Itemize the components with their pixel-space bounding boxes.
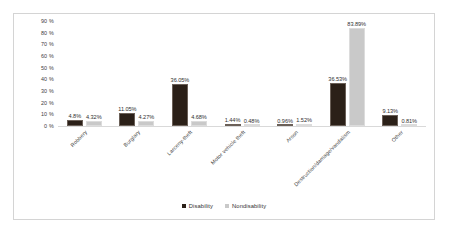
plot-area: 90 %80 %70 %60 %50 %40 %30 %20 %10 %0 % … bbox=[58, 21, 426, 126]
bar-group: 36.53%83.89%Destruction/damage/vandalism bbox=[321, 21, 374, 126]
category-axis-line bbox=[58, 126, 426, 127]
bar-pair: 11.05%4.27% bbox=[111, 21, 164, 126]
y-axis-tick-label: 30 % bbox=[41, 88, 54, 94]
y-axis-tick-label: 70 % bbox=[41, 41, 54, 47]
bar-column: 0.81% bbox=[401, 21, 417, 126]
y-axis-tick-label: 20 % bbox=[41, 100, 54, 106]
bar-column: 1.44% bbox=[225, 21, 241, 126]
bar-column: 4.68% bbox=[191, 21, 207, 126]
x-axis-category-label: Arson bbox=[284, 129, 299, 144]
bar-nondisability[interactable] bbox=[191, 121, 207, 126]
bar-value-label: 36.05% bbox=[171, 77, 190, 83]
bar-value-label: 11.05% bbox=[118, 106, 136, 112]
bar-disability[interactable] bbox=[225, 124, 241, 126]
bar-nondisability[interactable] bbox=[349, 28, 365, 126]
bar-group: 36.05%4.68%Larceny-theft bbox=[163, 21, 216, 126]
bar-group: 4.8%4.32%Robbery bbox=[58, 21, 111, 126]
bar-value-label: 0.81% bbox=[401, 118, 417, 124]
x-axis-category-label: Destruction/damage/vandalism bbox=[293, 129, 352, 188]
bar-pair: 4.8%4.32% bbox=[58, 21, 111, 126]
chart-legend: DisabilityNondisability bbox=[14, 203, 434, 209]
bar-value-label: 36.53% bbox=[328, 76, 347, 82]
bar-column: 83.89% bbox=[349, 21, 365, 126]
bar-column: 36.53% bbox=[330, 21, 346, 126]
y-axis-tick-label: 80 % bbox=[41, 30, 54, 36]
y-axis-tick-label: 90 % bbox=[41, 18, 54, 24]
bar-column: 11.05% bbox=[119, 21, 135, 126]
bar-disability[interactable] bbox=[277, 124, 293, 126]
bar-column: 4.27% bbox=[138, 21, 154, 126]
bar-value-label: 4.68% bbox=[191, 114, 207, 120]
x-axis-category-label: Larceny-theft bbox=[166, 129, 193, 156]
bar-value-label: 4.32% bbox=[86, 114, 102, 120]
bar-value-label: 1.44% bbox=[225, 117, 241, 123]
bar-column: 1.52% bbox=[296, 21, 312, 126]
bar-value-label: 4.8% bbox=[69, 113, 82, 119]
bar-disability[interactable] bbox=[67, 120, 83, 126]
bar-column: 4.32% bbox=[86, 21, 102, 126]
bar-pair: 36.05%4.68% bbox=[163, 21, 216, 126]
legend-item-disability[interactable]: Disability bbox=[182, 203, 213, 209]
y-axis-tick-label: 60 % bbox=[41, 53, 54, 59]
legend-item-nondisability[interactable]: Nondisability bbox=[225, 203, 266, 209]
bar-disability[interactable] bbox=[119, 113, 135, 126]
bar-disability[interactable] bbox=[382, 115, 398, 126]
bar-value-label: 0.48% bbox=[244, 118, 260, 124]
bar-column: 0.48% bbox=[244, 21, 260, 126]
bar-group: 0.96%1.52%Arson bbox=[268, 21, 321, 126]
bar-column: 9.13% bbox=[382, 21, 398, 126]
bar-column: 0.96% bbox=[277, 21, 293, 126]
legend-swatch-icon bbox=[225, 204, 229, 208]
legend-swatch-icon bbox=[182, 204, 186, 208]
bar-nondisability[interactable] bbox=[296, 124, 312, 126]
bar-pair: 1.44%0.48% bbox=[216, 21, 269, 126]
bar-value-label: 0.96% bbox=[277, 118, 293, 124]
legend-label: Nondisability bbox=[232, 203, 266, 209]
x-axis-category-label: Robbery bbox=[69, 129, 88, 148]
bar-group: 9.13%0.81%Other bbox=[373, 21, 426, 126]
bar-nondisability[interactable] bbox=[86, 121, 102, 126]
bar-pair: 9.13%0.81% bbox=[373, 21, 426, 126]
chart-frame: 90 %80 %70 %60 %50 %40 %30 %20 %10 %0 % … bbox=[13, 13, 435, 220]
bar-column: 4.8% bbox=[67, 21, 83, 126]
bar-disability[interactable] bbox=[172, 84, 188, 126]
bar-pair: 36.53%83.89% bbox=[321, 21, 374, 126]
x-axis-category-label: Other bbox=[390, 129, 404, 143]
y-axis-tick-label: 50 % bbox=[41, 65, 54, 71]
x-axis-category-label: Burglary bbox=[122, 129, 141, 148]
bar-value-label: 83.89% bbox=[347, 21, 366, 27]
y-axis-tick-label: 10 % bbox=[41, 111, 54, 117]
y-axis-tick-label: 0 % bbox=[44, 123, 54, 129]
legend-label: Disability bbox=[189, 203, 213, 209]
bar-pair: 0.96%1.52% bbox=[268, 21, 321, 126]
bar-group: 1.44%0.48%Motor vehicle theft bbox=[216, 21, 269, 126]
y-axis-tick-label: 40 % bbox=[41, 76, 54, 82]
bar-nondisability[interactable] bbox=[401, 124, 417, 126]
bar-group: 11.05%4.27%Burglary bbox=[111, 21, 164, 126]
bar-column: 36.05% bbox=[172, 21, 188, 126]
bar-groups: 4.8%4.32%Robbery11.05%4.27%Burglary36.05… bbox=[58, 21, 426, 126]
x-axis-category-label: Motor vehicle theft bbox=[210, 129, 247, 166]
bar-value-label: 9.13% bbox=[382, 108, 398, 114]
bar-nondisability[interactable] bbox=[138, 121, 154, 126]
bar-value-label: 1.52% bbox=[296, 117, 312, 123]
bar-disability[interactable] bbox=[330, 83, 346, 126]
bar-value-label: 4.27% bbox=[139, 114, 155, 120]
